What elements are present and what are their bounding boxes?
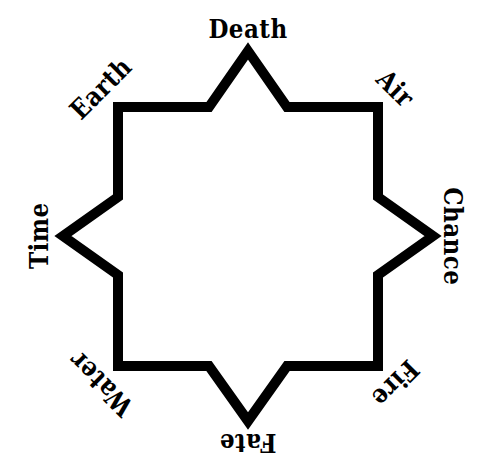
diagram-background [0,0,484,473]
eight-pointed-star-shape [0,0,484,473]
star-diagram: Death Air Chance Fire Fate Water Time Ea… [0,0,484,473]
